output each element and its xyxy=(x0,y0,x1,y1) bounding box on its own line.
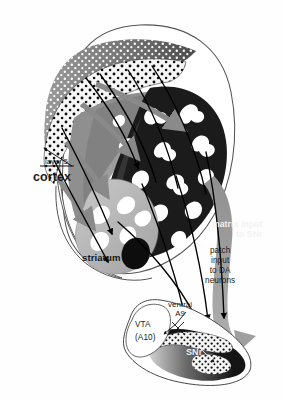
figure-root: cortex layer 5 striatum matrix input to … xyxy=(0,0,283,399)
label-patch-input-to-da-neurons: patch input to DA neurons xyxy=(205,246,235,286)
label-cortex: cortex xyxy=(33,171,71,185)
label-snr: SNr xyxy=(186,348,202,358)
label-layer-5: layer 5 xyxy=(45,158,68,166)
label-ventral-a9: ventral A9 xyxy=(168,300,192,318)
label-vta-a10: VTA (A10) xyxy=(135,319,156,344)
label-striatum: striatum xyxy=(82,253,121,263)
label-matrix-input-to-snr: matrix input to SNr xyxy=(212,219,262,239)
